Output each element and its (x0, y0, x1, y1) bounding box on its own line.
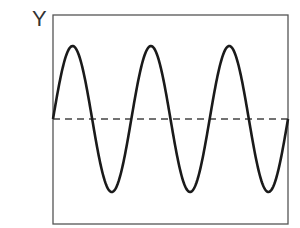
plot (0, 0, 300, 228)
sine-wave (53, 46, 288, 192)
diagram: Y (0, 0, 300, 228)
